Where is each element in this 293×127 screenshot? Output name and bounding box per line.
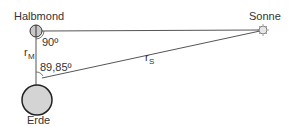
diagram-svg: Halbmond Sonne Erde 90º 89,85º r M r S bbox=[0, 0, 293, 127]
moon-sun-earth-diagram: Halbmond Sonne Erde 90º 89,85º r M r S bbox=[0, 0, 293, 127]
moon-angle-label: 90º bbox=[42, 36, 58, 48]
earth-label: Erde bbox=[27, 114, 50, 126]
moon-sun-line bbox=[42, 30, 260, 31]
sun-label: Sonne bbox=[249, 10, 281, 22]
r-sun-subscript: S bbox=[149, 57, 154, 66]
moon-label: Halbmond bbox=[14, 10, 64, 22]
sun-icon bbox=[257, 24, 269, 36]
earth-sun-line bbox=[42, 31, 260, 78]
r-moon-subscript: M bbox=[28, 52, 35, 61]
earth-icon bbox=[22, 85, 52, 115]
half-moon-icon bbox=[30, 25, 42, 37]
earth-angle-label: 89,85º bbox=[40, 61, 72, 73]
